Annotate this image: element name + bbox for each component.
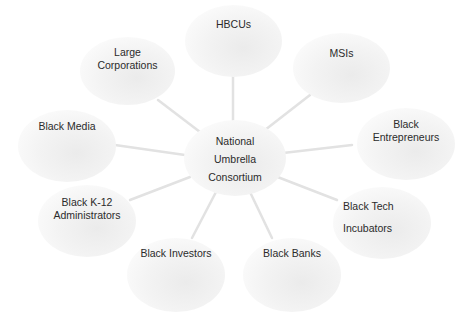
- node-black-k12-administrators: Black K-12 Administrators: [38, 185, 136, 257]
- connector-black-k12: [130, 177, 190, 200]
- node-label: MSIs: [330, 47, 354, 60]
- node-label: Black K-12: [62, 196, 113, 209]
- center-label: National: [216, 132, 255, 150]
- connector-large-corporations: [158, 100, 200, 132]
- node-label: Incubators: [343, 217, 392, 239]
- node-black-entrepreneurs: Black Entrepreneurs: [357, 108, 455, 180]
- connector-black-investors: [192, 192, 216, 238]
- connector-black-banks: [250, 192, 272, 238]
- node-black-investors: Black Investors: [127, 238, 225, 312]
- connector-black-tech-incubators: [275, 176, 337, 200]
- node-label: Entrepreneurs: [373, 131, 440, 144]
- node-black-banks: Black Banks: [243, 238, 341, 312]
- center-label: Consortium: [208, 168, 262, 186]
- node-label: Black Media: [38, 120, 95, 133]
- node-hbcus: HBCUs: [185, 5, 282, 77]
- node-black-media: Black Media: [18, 110, 116, 182]
- node-label: Black Banks: [263, 247, 321, 260]
- node-label: HBCUs: [216, 18, 251, 31]
- center-label: Umbrella: [214, 150, 256, 168]
- node-large-corporations: Large Corporations: [80, 37, 175, 105]
- node-label: Black Tech: [343, 195, 394, 217]
- node-center-national-umbrella-consortium: National Umbrella Consortium: [184, 120, 286, 196]
- node-label: Black: [393, 118, 419, 131]
- connector-black-media: [115, 145, 185, 155]
- node-label: Large: [114, 46, 141, 59]
- node-label: Black Investors: [140, 247, 211, 260]
- node-label: Corporations: [97, 59, 157, 72]
- node-label: Administrators: [53, 209, 120, 222]
- node-msis: MSIs: [293, 33, 390, 103]
- node-black-tech-incubators: Black Tech Incubators: [333, 187, 431, 259]
- connector-msis: [265, 95, 310, 130]
- connector-black-entrepreneurs: [283, 145, 352, 153]
